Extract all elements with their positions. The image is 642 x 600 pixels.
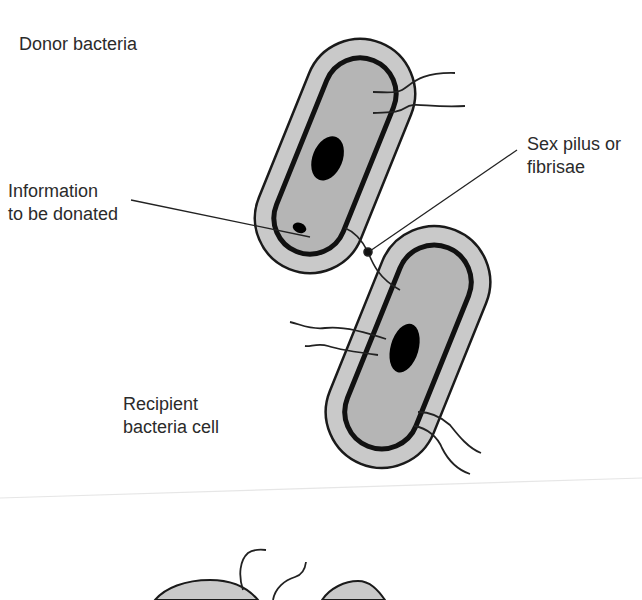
pilus-label-line1: Sex pilus or: [527, 133, 621, 156]
pilus-label-line2: fibrisae: [527, 156, 621, 179]
recipient-label: Recipient bacteria cell: [123, 393, 219, 439]
conjugation-diagram: Donor bacteria Information to be donated…: [0, 0, 642, 600]
page-fold-line: [0, 478, 642, 498]
information-label-line2: to be donated: [8, 203, 118, 226]
bottom-cell-left: [155, 550, 306, 600]
bottom-cell-right: [322, 581, 385, 600]
diagram-artwork: [0, 0, 642, 600]
donor-label: Donor bacteria: [19, 33, 137, 56]
recipient-label-line2: bacteria cell: [123, 416, 219, 439]
donor-label-line1: Donor bacteria: [19, 33, 137, 56]
recipient-label-line1: Recipient: [123, 393, 219, 416]
information-label: Information to be donated: [8, 180, 118, 226]
pilus-label: Sex pilus or fibrisae: [527, 133, 621, 179]
information-label-line1: Information: [8, 180, 118, 203]
